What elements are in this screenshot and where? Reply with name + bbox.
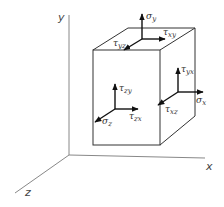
tau-xy-label: τxy bbox=[163, 27, 177, 39]
tau-yx-label: τyx bbox=[181, 64, 194, 76]
y-axis-label: y bbox=[57, 11, 65, 24]
x-axis bbox=[69, 155, 205, 158]
z-axis-label: z bbox=[24, 186, 31, 199]
z-axis bbox=[15, 155, 69, 193]
sigma-y-label: σy bbox=[146, 11, 157, 23]
sigma-x-label: σx bbox=[196, 95, 206, 107]
stress-element-diagram: y x z σy τxy τyz τzy τzx σz τyx σx τxz bbox=[0, 0, 224, 207]
tau-xz-label: τxz bbox=[165, 104, 178, 116]
cube-front-face bbox=[93, 50, 160, 145]
sigma-z-label: σz bbox=[102, 116, 112, 128]
tau-zx-label: τzx bbox=[129, 111, 142, 123]
tau-yz-arrow bbox=[124, 39, 142, 50]
tau-zy-label: τzy bbox=[119, 83, 133, 95]
tau-yz-label: τyz bbox=[113, 38, 126, 50]
x-axis-label: x bbox=[205, 160, 213, 173]
top-face-stresses bbox=[124, 14, 165, 50]
